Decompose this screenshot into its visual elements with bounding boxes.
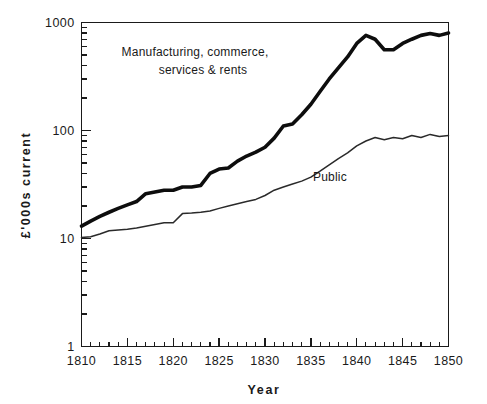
x-axis: 181018151820182518301835184018451850 <box>67 338 463 368</box>
x-tick-label: 1850 <box>434 354 463 368</box>
y-tick-label: 100 <box>52 124 74 138</box>
series-line-public <box>82 134 449 237</box>
x-tick-label: 1845 <box>388 354 417 368</box>
y-axis-title: £'000s current <box>19 132 33 239</box>
x-tick-label: 1835 <box>296 354 325 368</box>
y-axis-title-text: £'000s current <box>19 132 33 239</box>
chart-figure: 1000100101 18101815182018251830183518401… <box>0 0 487 404</box>
annotation-manufacturing-line1: Manufacturing, commerce, <box>122 45 269 59</box>
y-axis: 1000100101 <box>45 16 90 354</box>
y-tick-label: 1 <box>67 340 74 354</box>
x-axis-title-text: Year <box>248 383 281 397</box>
x-tick-label: 1820 <box>159 354 188 368</box>
annotation-manufacturing-line2: services & rents <box>159 63 248 77</box>
x-tick-label: 1825 <box>204 354 233 368</box>
x-tick-label: 1830 <box>250 354 279 368</box>
plot-frame <box>82 23 449 347</box>
series-group <box>82 33 449 238</box>
y-tick-label: 1000 <box>45 16 74 30</box>
annotation-manufacturing: Manufacturing, commerce, services & rent… <box>122 45 269 77</box>
y-tick-label: 10 <box>60 232 75 246</box>
series-line-manufacturing <box>82 33 449 226</box>
annotation-public: Public <box>313 170 347 184</box>
log-line-chart: 1000100101 18101815182018251830183518401… <box>0 0 487 404</box>
x-tick-label: 1840 <box>342 354 371 368</box>
x-tick-label: 1815 <box>113 354 142 368</box>
x-tick-label: 1810 <box>67 354 96 368</box>
